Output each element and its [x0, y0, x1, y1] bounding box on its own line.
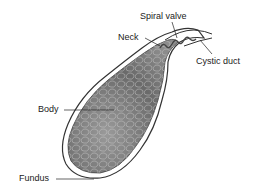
label-fundus: Fundus: [19, 174, 49, 183]
label-spiral-valve: Spiral valve: [140, 12, 187, 21]
gallbladder-illustration: [0, 0, 255, 195]
label-neck: Neck: [118, 33, 139, 42]
leader-cystic-duct: [200, 40, 212, 54]
label-body: Body: [38, 105, 59, 114]
label-cystic-duct: Cystic duct: [196, 57, 240, 66]
